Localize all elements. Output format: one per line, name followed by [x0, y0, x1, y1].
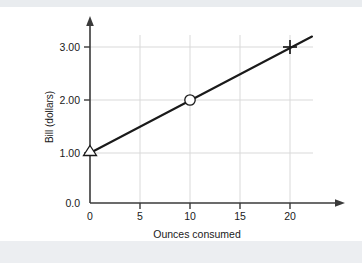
x-tick-label-20: 20	[284, 210, 296, 222]
x-tick-marks	[140, 203, 290, 209]
chart-figure: 0.0 1.00 2.00 3.00 0 5 10 15 20 Ounces c…	[0, 7, 362, 241]
line-chart: 0.0 1.00 2.00 3.00 0 5 10 15 20 Ounces c…	[0, 7, 362, 241]
top-margin-band	[0, 0, 362, 7]
x-tick-labels: 0 5 10 15 20	[87, 210, 296, 222]
x-tick-label-5: 5	[137, 210, 143, 222]
y-tick-label-0: 0.0	[65, 197, 80, 209]
x-axis-title: Ounces consumed	[153, 228, 241, 240]
y-axis	[86, 16, 94, 203]
marker-circle	[185, 95, 195, 105]
x-tick-label-10: 10	[184, 210, 196, 222]
data-line	[90, 37, 312, 154]
y-axis-title: Bill (dollars)	[44, 91, 55, 143]
x-tick-label-15: 15	[234, 210, 246, 222]
bottom-margin-band	[0, 241, 362, 263]
y-tick-label-3: 3.00	[60, 41, 81, 53]
x-tick-label-0: 0	[87, 210, 93, 222]
x-axis	[90, 199, 345, 207]
y-tick-marks	[84, 47, 90, 153]
marker-plus	[283, 40, 297, 54]
y-tick-label-2: 2.00	[60, 94, 81, 106]
y-tick-labels: 0.0 1.00 2.00 3.00	[60, 41, 81, 209]
y-tick-label-1: 1.00	[60, 147, 81, 159]
horizontal-gridlines	[90, 47, 313, 153]
